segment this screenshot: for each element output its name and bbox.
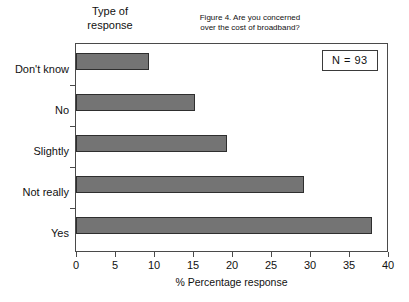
bar-slightly	[76, 135, 227, 152]
figure-caption-line1: Figure 4. Are you concerned	[200, 13, 301, 22]
bar-no	[76, 94, 195, 111]
x-tick-label: 25	[256, 259, 286, 271]
y-tick-mark	[70, 85, 76, 86]
x-axis-title: % Percentage response	[75, 276, 388, 288]
y-axis-label-slightly: Slightly	[0, 145, 72, 157]
sample-size-box: N = 93	[322, 50, 378, 71]
bar-dont-know	[76, 53, 149, 70]
y-tick-mark	[70, 126, 76, 127]
y-axis-group-title-line1: Type of	[92, 5, 128, 17]
y-axis-group-title-line2: response	[87, 19, 132, 31]
x-tick-label: 10	[139, 259, 169, 271]
y-tick-mark	[70, 208, 76, 209]
x-tick-mark	[349, 252, 350, 257]
x-tick-mark	[76, 252, 77, 257]
x-tick-label: 20	[217, 259, 247, 271]
y-axis-label-yes: Yes	[0, 227, 72, 239]
y-axis-group-title: Type of response	[55, 5, 165, 32]
x-tick-mark	[115, 252, 116, 257]
y-axis-label-not-really: Not really	[0, 186, 72, 198]
x-tick-mark	[154, 252, 155, 257]
y-axis-label-no: No	[0, 104, 72, 116]
x-tick-mark	[271, 252, 272, 257]
figure-bar-chart: Type of response Figure 4. Are you conce…	[0, 0, 409, 302]
x-tick-label: 30	[295, 259, 325, 271]
y-tick-mark	[70, 167, 76, 168]
x-tick-mark	[232, 252, 233, 257]
x-tick-label: 35	[334, 259, 364, 271]
x-tick-mark	[388, 252, 389, 257]
figure-caption: Figure 4. Are you concerned over the cos…	[160, 13, 340, 33]
x-tick-label: 0	[61, 259, 91, 271]
bar-not-really	[76, 176, 304, 193]
bar-yes	[76, 217, 372, 234]
figure-caption-line2: over the cost of broadband?	[160, 23, 340, 33]
bars-layer	[76, 44, 388, 251]
x-tick-label: 40	[373, 259, 403, 271]
y-axis-label-dont-know: Don't know	[0, 63, 72, 75]
x-tick-label: 5	[100, 259, 130, 271]
x-tick-mark	[310, 252, 311, 257]
x-tick-label: 15	[178, 259, 208, 271]
x-tick-mark	[193, 252, 194, 257]
